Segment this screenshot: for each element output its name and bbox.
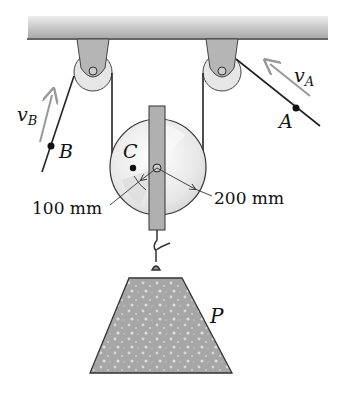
pulley-diagram: vA vB A B C 100 mm 200 mm P [0,0,341,394]
ceiling [27,16,328,39]
label-vb: vB [17,103,37,128]
moving-pulley [110,106,206,230]
point-a-dot [293,105,300,112]
label-a: A [277,110,293,132]
label-b: B [58,140,73,162]
right-fixed-pulley [203,39,241,91]
hook [152,230,170,270]
label-va: vA [294,64,314,89]
label-inner-radius: 100 mm [32,198,102,218]
velocity-b-arrow [40,95,52,142]
left-fixed-pulley [74,39,112,91]
point-b-dot [48,143,55,150]
label-c: C [123,140,138,162]
point-c-dot [130,165,136,171]
label-p: P [209,304,224,328]
label-outer-radius: 200 mm [214,188,284,208]
